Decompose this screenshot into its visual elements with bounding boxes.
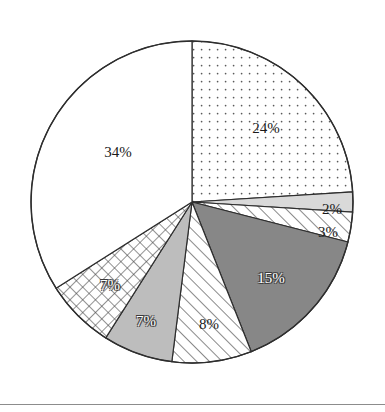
pie-slices [31, 41, 353, 363]
pie-chart-canvas [0, 0, 385, 412]
footer-divider [0, 404, 385, 405]
pie-chart-figure: 24%2%3%15%8%7%7%34% [0, 0, 385, 412]
pie-slice[interactable] [192, 41, 353, 202]
